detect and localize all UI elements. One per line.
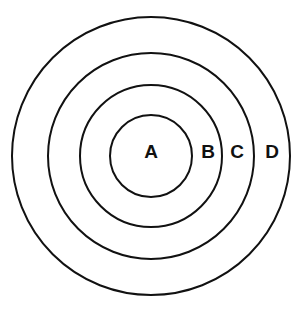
concentric-circles-diagram: A B C D	[0, 0, 306, 313]
ring-label-a: A	[144, 141, 158, 162]
ring-label-c: C	[230, 141, 244, 162]
ring-labels-group: A B C D	[144, 141, 279, 162]
ring-label-b: B	[201, 141, 215, 162]
ring-label-d: D	[265, 141, 279, 162]
diagram-canvas: A B C D	[0, 0, 306, 313]
